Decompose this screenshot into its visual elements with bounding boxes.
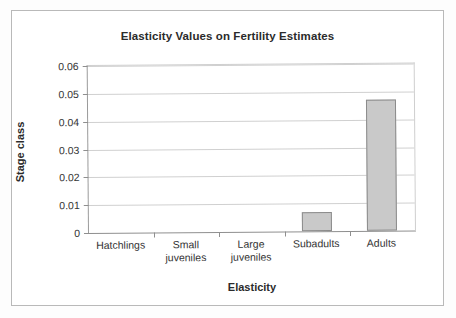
x-axis-category-label: Smalljuveniles [153, 238, 218, 264]
y-axis-tick [84, 205, 89, 206]
y-axis-tick-label: 0.05 [58, 88, 79, 100]
y-axis-tick [83, 122, 88, 123]
x-axis-category-label: Hatchlings [88, 238, 153, 251]
y-axis-tick-label: 0.04 [59, 116, 80, 128]
x-axis-tick [285, 231, 286, 236]
y-axis-title: Stage class [14, 122, 26, 183]
y-axis-tick [83, 94, 88, 95]
gridline [88, 63, 414, 67]
gridline [89, 175, 415, 179]
chart-image: Elasticity Values on Fertility Estimates… [0, 0, 456, 318]
bar-adults [366, 100, 397, 231]
gridline [88, 119, 414, 123]
x-axis-tick [219, 232, 220, 237]
x-axis-tick [154, 232, 155, 237]
y-axis-tick-label: 0.06 [58, 60, 79, 72]
x-axis-category-label: Adults [349, 236, 414, 249]
x-axis-category-labels: HatchlingsSmalljuvenilesLargejuvenilesSu… [88, 236, 416, 281]
x-axis-category-label: Subadults [284, 237, 349, 250]
x-axis-tick [350, 231, 351, 236]
gridline [88, 91, 414, 95]
y-axis-tick [84, 233, 89, 234]
y-axis-tick [83, 149, 88, 150]
y-axis-tick [83, 66, 88, 67]
chart-title: Elasticity Values on Fertility Estimates [12, 30, 443, 42]
y-axis-tick [84, 177, 89, 178]
x-axis-category-label: Largejuveniles [218, 237, 283, 263]
y-axis-tick-label: 0.02 [59, 171, 80, 183]
plot-area: 0.060.050.040.030.020.010 [87, 62, 416, 234]
y-axis-tick-label: 0.01 [59, 199, 80, 211]
y-axis-tick-label: 0.03 [59, 144, 80, 156]
gridline [89, 203, 415, 207]
x-axis-title: Elasticity [88, 281, 416, 293]
bar-subadults [302, 212, 332, 232]
gridline [88, 147, 414, 151]
y-axis-tick-label: 0 [74, 227, 80, 239]
